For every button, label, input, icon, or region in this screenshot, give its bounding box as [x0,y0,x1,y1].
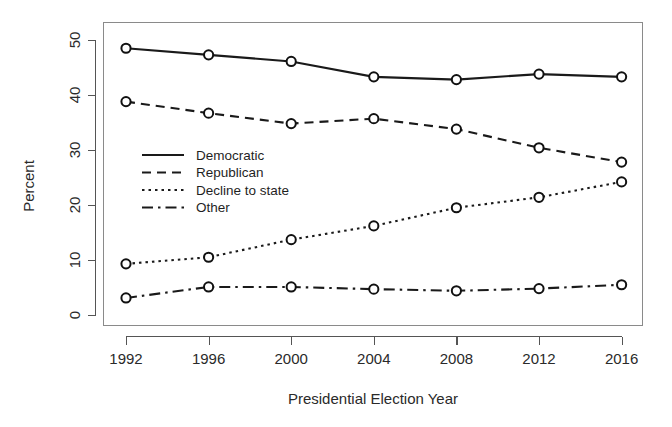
x-tick-label: 1992 [109,350,142,367]
y-axis-title: Percent [20,159,37,212]
chart-background [0,0,672,427]
x-tick-label: 2012 [522,350,555,367]
data-point [534,143,543,152]
data-point [121,44,130,53]
data-point [452,75,461,84]
data-point [287,235,296,244]
legend-label: Other [196,200,230,215]
data-point [452,286,461,295]
data-point [534,284,543,293]
data-point [287,282,296,291]
y-tick-label: 40 [66,87,83,104]
data-point [287,57,296,66]
data-point [287,119,296,128]
data-point [534,193,543,202]
data-point [121,293,130,302]
x-axis-title: Presidential Election Year [288,390,458,407]
data-point [369,285,378,294]
data-point [617,72,626,81]
x-tick-label: 2000 [275,350,308,367]
data-point [204,50,213,59]
data-point [534,70,543,79]
y-tick-label: 0 [66,311,83,319]
chart-canvas: 01020304050 1992199620002004200820122016… [0,0,672,427]
data-point [617,280,626,289]
x-tick-label: 1996 [192,350,225,367]
data-point [121,259,130,268]
data-point [204,282,213,291]
data-point [369,221,378,230]
data-point [204,109,213,118]
data-point [369,72,378,81]
data-point [452,125,461,134]
y-tick-label: 30 [66,142,83,159]
x-tick-label: 2004 [357,350,390,367]
line-chart-figure: 01020304050 1992199620002004200820122016… [0,0,672,427]
data-point [617,177,626,186]
y-tick-label: 10 [66,252,83,269]
data-point [617,158,626,167]
x-tick-label: 2016 [605,350,638,367]
data-point [369,114,378,123]
data-point [121,97,130,106]
legend-label: Democratic [196,148,265,163]
y-tick-label: 50 [66,32,83,49]
legend-label: Republican [196,165,264,180]
data-point [452,203,461,212]
data-point [204,253,213,262]
y-tick-label: 20 [66,197,83,214]
x-tick-label: 2008 [440,350,473,367]
legend-label: Decline to state [196,183,289,198]
